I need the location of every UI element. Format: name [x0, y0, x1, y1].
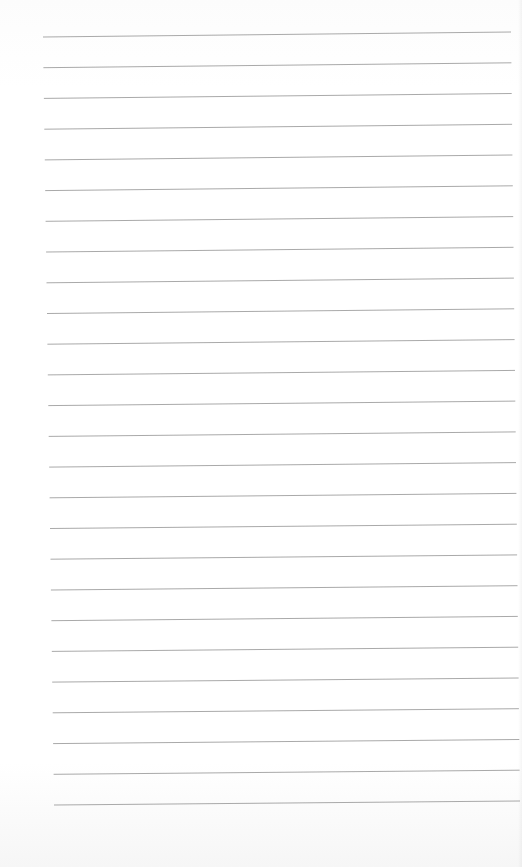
ruled-line: [49, 463, 516, 468]
ruled-line: [44, 124, 512, 129]
ruled-line: [45, 186, 513, 191]
ruled-line: [51, 586, 518, 590]
ruled-line: [51, 555, 518, 559]
ruled-line: [43, 32, 511, 37]
ruled-line: [49, 432, 516, 437]
ruled-line: [43, 63, 511, 68]
lined-paper-sheet: [0, 0, 522, 867]
ruled-line: [53, 709, 519, 713]
ruled-line: [50, 524, 517, 528]
ruled-line: [47, 340, 514, 345]
ruled-line: [53, 740, 519, 744]
ruled-lines: [0, 0, 522, 867]
ruled-line: [47, 278, 514, 283]
ruled-line: [50, 493, 517, 497]
ruled-line: [46, 247, 513, 252]
ruled-line: [48, 370, 515, 375]
ruled-line: [46, 217, 514, 222]
ruled-line: [45, 155, 513, 160]
paper-edge-shadow: [518, 0, 522, 867]
ruled-line: [54, 770, 520, 774]
ruled-line: [54, 801, 520, 805]
ruled-line: [51, 616, 517, 620]
ruled-line: [44, 94, 512, 99]
ruled-line: [47, 309, 514, 314]
ruled-line: [48, 401, 515, 406]
ruled-line: [52, 647, 518, 651]
ruled-line: [52, 678, 518, 682]
